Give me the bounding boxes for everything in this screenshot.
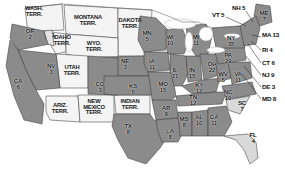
utah-territory-shape: [56, 54, 88, 88]
virginia-shape: [228, 62, 252, 84]
vt-leader-line: [226, 17, 246, 26]
indiana-shape: [186, 56, 202, 82]
map-shapes: [6, 4, 272, 164]
alabama-shape: [192, 110, 208, 136]
indian-territory-shape: [114, 95, 150, 114]
light-state-shapes: [224, 96, 258, 164]
mississippi-shape: [178, 112, 192, 136]
lake-huron-shape: [199, 27, 213, 41]
new-mexico-territory-shape: [78, 95, 114, 122]
wisconsin-shape: [166, 28, 188, 54]
minnesota-shape: [138, 16, 168, 52]
georgia-shape: [208, 106, 232, 136]
florida-shape: [224, 134, 258, 164]
lake-erie-shape: [207, 47, 225, 53]
lake-ontario-shape: [224, 33, 240, 38]
electoral-map: OR21CA6NV3NE3CO3KS5TX8MN5IA11MO15AR8LA8W…: [0, 0, 285, 175]
map-geometry: [0, 0, 285, 175]
montana-territory-shape: [64, 5, 118, 38]
lake-michigan-shape: [185, 32, 193, 52]
iowa-shape: [144, 52, 170, 72]
arizona-territory-shape: [46, 96, 80, 122]
kansas-shape: [104, 76, 152, 95]
tennessee-shape: [176, 92, 226, 106]
arkansas-shape: [152, 100, 178, 120]
wyoming-territory-shape: [66, 34, 118, 58]
ct-leader-line: [248, 44, 261, 63]
lake-superior-shape: [164, 19, 196, 29]
north-carolina-shape: [222, 82, 256, 100]
illinois-shape: [170, 54, 188, 86]
new-england-block-shape: [240, 16, 260, 46]
